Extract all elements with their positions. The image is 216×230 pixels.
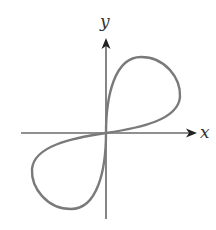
plot-canvas	[0, 0, 216, 230]
upper-lobe-curve	[106, 57, 180, 133]
lower-lobe-curve	[32, 133, 106, 209]
x-axis-label: x	[200, 124, 210, 141]
y-axis-label: y	[100, 13, 110, 30]
curve-diagram: x y	[0, 0, 216, 230]
